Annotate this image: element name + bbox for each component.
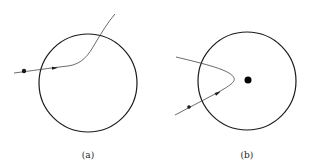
scattering-diagram: (a) (b): [0, 0, 312, 167]
target-region-circle: [39, 34, 137, 132]
panel-label: (a): [82, 150, 94, 160]
panel-a: (a): [14, 14, 137, 160]
particle-trajectory: [14, 14, 115, 73]
scattering-center-dot: [245, 77, 252, 84]
direction-arrow-icon: [52, 66, 58, 70]
panel-b: (b): [175, 32, 296, 160]
panel-label: (b): [241, 150, 254, 160]
incident-particle-dot: [22, 69, 26, 73]
incident-particle-dot: [187, 105, 191, 109]
